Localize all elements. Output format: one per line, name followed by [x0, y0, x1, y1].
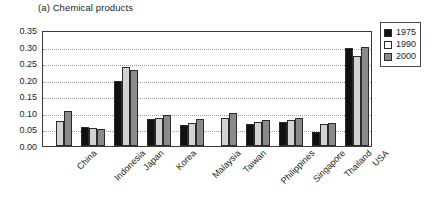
y-axis-tick-label: 0.10 [19, 109, 37, 118]
bar [97, 129, 105, 146]
x-axis-tick-label: China [74, 148, 98, 172]
x-axis-tick-label: Taiwan [241, 148, 268, 175]
bar-group [175, 32, 208, 146]
legend-label: 1975 [396, 28, 416, 37]
bar [122, 67, 130, 146]
x-axis-tick-label: Philippines [278, 148, 316, 186]
bar [89, 128, 97, 146]
bar [81, 127, 89, 146]
bar [345, 48, 353, 146]
bar [320, 124, 328, 146]
legend-label: 1990 [396, 40, 416, 49]
bar [328, 123, 336, 146]
chart-legend: 197519902000 [380, 22, 421, 67]
bar [130, 70, 138, 146]
y-axis-tick-label: 0.20 [19, 76, 37, 85]
bar [361, 47, 369, 146]
x-axis-tick-label: Thailand [342, 148, 373, 179]
y-axis-tick-label: 0.05 [19, 126, 37, 135]
bar [246, 124, 254, 146]
bar [295, 118, 303, 146]
chart-title: (a) Chemical products [38, 2, 133, 13]
bar-group [142, 32, 175, 146]
x-axis-tick-label: Korea [174, 148, 198, 172]
bar-group [208, 32, 241, 146]
x-axis-tick-label: USA [370, 148, 390, 168]
bar [163, 115, 171, 146]
plot-area [42, 31, 372, 147]
y-axis-tick-label: 0.25 [19, 60, 37, 69]
y-axis-tick-label: 0.00 [19, 143, 37, 152]
legend-swatch-icon [384, 41, 392, 49]
bars-layer [43, 32, 371, 146]
bar [229, 113, 237, 146]
bar [262, 120, 270, 147]
x-axis-tick-label: Malaysia [210, 148, 242, 180]
bar-group [307, 32, 340, 146]
bar [287, 120, 295, 147]
bar [312, 132, 320, 146]
bar [353, 56, 361, 146]
legend-swatch-icon [384, 53, 392, 61]
bar-group [43, 32, 76, 146]
bar [279, 122, 287, 146]
x-axis: ChinaIndonesiaJapanKoreaMalaysiaTaiwanPh… [42, 148, 372, 206]
bar [221, 118, 229, 146]
bar-group [109, 32, 142, 146]
y-axis-tick-label: 0.35 [19, 27, 37, 36]
y-axis-tick-label: 0.15 [19, 93, 37, 102]
bar [64, 111, 72, 146]
bar [196, 119, 204, 146]
bar-group [76, 32, 109, 146]
y-axis-tick-label: 0.30 [19, 43, 37, 52]
legend-item: 1990 [384, 39, 416, 50]
bar [155, 118, 163, 146]
chart-figure: (a) Chemical products 0.350.300.250.200.… [0, 0, 435, 209]
legend-label: 2000 [396, 52, 416, 61]
bar [56, 121, 64, 146]
bar [188, 123, 196, 146]
bar-group [241, 32, 274, 146]
bar [180, 125, 188, 146]
bar-group [274, 32, 307, 146]
bar [114, 81, 122, 146]
bar-group [340, 32, 373, 146]
legend-item: 1975 [384, 27, 416, 38]
legend-item: 2000 [384, 51, 416, 62]
bar [147, 119, 155, 146]
y-axis: 0.350.300.250.200.150.100.050.00 [0, 31, 40, 147]
legend-swatch-icon [384, 29, 392, 37]
bar [254, 122, 262, 146]
